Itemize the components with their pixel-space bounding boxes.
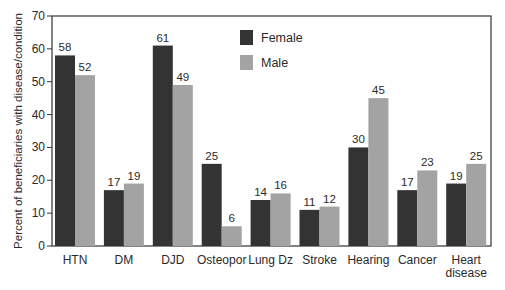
y-tick-label: 60 [32, 42, 46, 56]
bar-value-label: 19 [450, 170, 463, 182]
bar-value-label: 25 [470, 150, 483, 162]
y-tick-label: 10 [32, 206, 46, 220]
bar-female [348, 147, 368, 246]
y-tick-label: 50 [32, 75, 46, 89]
x-tick-label: Cancer [398, 253, 437, 267]
bar-female [202, 164, 222, 246]
bar-group-cancer: 1723 [397, 156, 437, 246]
y-tick-label: 40 [32, 108, 46, 122]
bar-value-label: 11 [304, 196, 316, 208]
x-tick-label: Hearing [347, 253, 389, 267]
bar-value-label: 58 [59, 41, 72, 53]
bar-male [222, 226, 242, 246]
bar-group-heart-disease: 1925 [446, 150, 486, 246]
bar-value-label: 49 [176, 71, 189, 83]
x-tick-label: DM [115, 253, 134, 267]
legend: FemaleMale [240, 30, 303, 70]
bar-male [124, 184, 144, 246]
bar-value-label: 61 [156, 32, 169, 44]
x-tick-label: disease [446, 266, 488, 280]
bar-female [251, 200, 271, 246]
legend-item-female: Female [240, 30, 303, 45]
y-tick-label: 30 [32, 140, 46, 154]
x-tick-label: HTN [63, 253, 88, 267]
bar-female [55, 55, 75, 246]
bar-female [104, 190, 124, 246]
legend-item-male: Male [240, 55, 288, 70]
legend-label: Male [261, 56, 288, 70]
bar-value-label: 52 [79, 61, 92, 73]
bar-group-htn: 5852 [55, 41, 95, 246]
y-axis-label: Percent of beneficiaries with disease/co… [12, 13, 24, 249]
bar-female [300, 210, 320, 246]
y-axis: 010203040506070 [32, 9, 52, 253]
bar-female [446, 184, 466, 246]
bar-value-label: 17 [108, 176, 121, 188]
bar-male [320, 207, 340, 246]
x-tick-label: Heart [452, 253, 482, 267]
bar-value-label: 6 [228, 212, 234, 224]
bar-value-label: 23 [421, 156, 434, 168]
bar-value-label: 19 [128, 170, 141, 182]
bar-value-label: 16 [274, 179, 287, 191]
bar-value-label: 30 [352, 133, 365, 145]
bar-male [417, 170, 437, 246]
y-tick-label: 20 [32, 173, 46, 187]
legend-swatch [240, 30, 253, 45]
bar-group-lung-dz: 1416 [251, 179, 291, 246]
bar-value-label: 12 [323, 193, 336, 205]
x-tick-label: Stroke [302, 253, 337, 267]
bar-group-dm: 1719 [104, 170, 144, 246]
bar-chart: 010203040506070 585217196149256141611123… [0, 0, 505, 290]
bar-group-djd: 6149 [153, 32, 193, 246]
bar-group-osteopor: 256 [202, 150, 242, 246]
x-tick-label: Lung Dz [248, 253, 293, 267]
bar-group-stroke: 1112 [300, 193, 340, 246]
bar-male [173, 85, 193, 246]
x-tick-label: Osteopor [197, 253, 246, 267]
bar-female [153, 46, 173, 246]
bar-group-hearing: 3045 [348, 84, 388, 246]
y-tick-label: 0 [38, 239, 45, 253]
bar-value-label: 25 [205, 150, 218, 162]
bar-male [75, 75, 95, 246]
bar-value-label: 17 [401, 176, 414, 188]
legend-label: Female [261, 31, 303, 45]
legend-swatch [240, 55, 253, 70]
bar-value-label: 45 [372, 84, 385, 96]
bar-male [466, 164, 486, 246]
bar-value-label: 14 [254, 186, 267, 198]
x-axis: HTNDMDJDOsteoporLung DzStrokeHearingCanc… [63, 253, 488, 280]
y-tick-label: 70 [32, 9, 46, 23]
bar-male [368, 98, 388, 246]
x-tick-label: DJD [161, 253, 185, 267]
bar-male [271, 193, 291, 246]
bar-female [397, 190, 417, 246]
